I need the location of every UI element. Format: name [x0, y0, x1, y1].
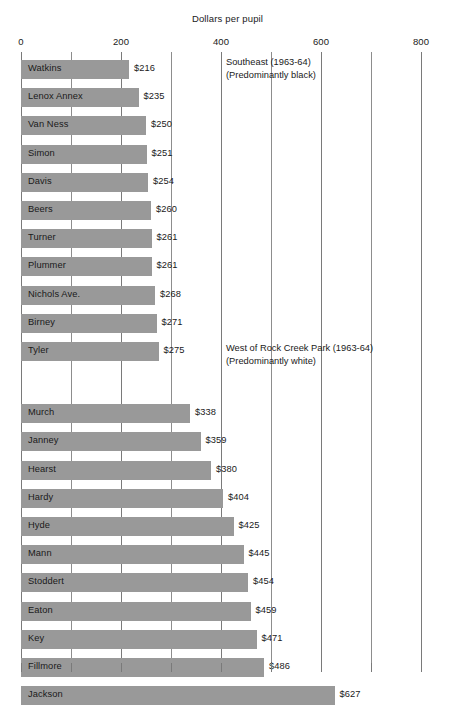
bottom-tick — [121, 663, 122, 672]
bar-value-label: $251 — [152, 148, 173, 158]
bar-row: Eaton$459 — [0, 602, 455, 621]
group-annotation-west-of-rock-creek-park: West of Rock Creek Park (1963-64)(Predom… — [226, 342, 373, 367]
chart-title: Dollars per pupil — [0, 13, 455, 24]
bar-value-label: $260 — [156, 204, 177, 214]
bar-value-label: $404 — [228, 492, 249, 502]
group-annotation-southeast: Southeast (1963-64)(Predominantly black) — [226, 56, 316, 81]
bar-category-label: Simon — [28, 148, 55, 158]
bar-category-label: Beers — [28, 204, 53, 214]
bar-row: Beers$260 — [0, 201, 455, 220]
bar — [21, 545, 244, 564]
annotation-line: West of Rock Creek Park (1963-64) — [226, 342, 373, 355]
bar-value-label: $627 — [340, 689, 361, 699]
bar-row: Hardy$404 — [0, 489, 455, 508]
bar-row: Turner$261 — [0, 229, 455, 248]
bar — [21, 602, 251, 621]
bar-category-label: Eaton — [28, 605, 53, 615]
x-tick-label: 0 — [18, 36, 23, 47]
bar-category-label: Murch — [28, 407, 54, 417]
annotation-line: Southeast (1963-64) — [226, 56, 316, 69]
bar-category-label: Watkins — [28, 63, 61, 73]
bar — [21, 686, 335, 705]
bar-row: Davis$254 — [0, 173, 455, 192]
bar — [21, 630, 257, 649]
bar-value-label: $486 — [269, 661, 290, 671]
bottom-tick-minor — [271, 663, 272, 672]
bar-row: Mann$445 — [0, 545, 455, 564]
bar-category-label: Tyler — [28, 345, 49, 355]
bar-row: Van Ness$250 — [0, 116, 455, 135]
bar-row: Lenox Annex$235 — [0, 88, 455, 107]
bar-row: Hearst$380 — [0, 461, 455, 480]
bar-row: Jackson$627 — [0, 686, 455, 705]
bar-value-label: $271 — [162, 317, 183, 327]
bar-row: Birney$271 — [0, 314, 455, 333]
bar-value-label: $359 — [206, 435, 227, 445]
bar-row: Simon$251 — [0, 145, 455, 164]
bar — [21, 517, 234, 536]
x-tick-label: 600 — [313, 36, 329, 47]
bar-row: Plummer$261 — [0, 257, 455, 276]
bar-category-label: Stoddert — [28, 576, 64, 586]
bar-category-label: Lenox Annex — [28, 91, 83, 101]
bar-category-label: Nichols Ave. — [28, 289, 80, 299]
bar-value-label: $250 — [151, 119, 172, 129]
bar-value-label: $254 — [153, 176, 174, 186]
bar-value-label: $454 — [253, 576, 274, 586]
bar-category-label: Birney — [28, 317, 55, 327]
bottom-tick — [221, 663, 222, 672]
bar-category-label: Janney — [28, 435, 59, 445]
bar-value-label: $275 — [164, 345, 185, 355]
bottom-tick — [21, 663, 22, 672]
bottom-tick-minor — [171, 663, 172, 672]
bottom-tick — [421, 663, 422, 672]
x-tick-label: 800 — [413, 36, 429, 47]
bar-category-label: Fillmore — [28, 661, 62, 671]
bar-category-label: Plummer — [28, 260, 66, 270]
x-tick-label: 400 — [213, 36, 229, 47]
bar-row: Janney$359 — [0, 432, 455, 451]
bar-category-label: Van Ness — [28, 119, 68, 129]
bar-value-label: $471 — [262, 633, 283, 643]
bar-value-label: $216 — [134, 63, 155, 73]
annotation-line: (Predominantly white) — [226, 355, 373, 368]
bar-value-label: $380 — [216, 464, 237, 474]
bar-row: Nichols Ave.$268 — [0, 286, 455, 305]
bar-value-label: $268 — [160, 289, 181, 299]
bar-row: Hyde$425 — [0, 517, 455, 536]
bar-value-label: $459 — [256, 605, 277, 615]
bar-value-label: $261 — [157, 260, 178, 270]
bar-category-label: Jackson — [28, 689, 63, 699]
bar-category-label: Mann — [28, 548, 52, 558]
bar-category-label: Hearst — [28, 464, 56, 474]
bottom-tick-minor — [371, 663, 372, 672]
x-tick-label: 200 — [113, 36, 129, 47]
bar-value-label: $235 — [144, 91, 165, 101]
bar-row: Stoddert$454 — [0, 573, 455, 592]
bar-category-label: Hyde — [28, 520, 50, 530]
bar-value-label: $425 — [239, 520, 260, 530]
bar-value-label: $338 — [195, 407, 216, 417]
bar-row: Murch$338 — [0, 404, 455, 423]
bar-value-label: $261 — [157, 232, 178, 242]
bottom-tick-minor — [71, 663, 72, 672]
bar-row: Key$471 — [0, 630, 455, 649]
bar-row: Fillmore$486 — [0, 658, 455, 677]
bar-category-label: Davis — [28, 176, 52, 186]
bar-category-label: Key — [28, 633, 44, 643]
bar-category-label: Hardy — [28, 492, 53, 502]
bar-category-label: Turner — [28, 232, 56, 242]
annotation-line: (Predominantly black) — [226, 69, 316, 82]
plot-area: Watkins$216Lenox Annex$235Van Ness$250Si… — [0, 52, 455, 672]
bottom-tick — [321, 663, 322, 672]
bar-value-label: $445 — [249, 548, 270, 558]
